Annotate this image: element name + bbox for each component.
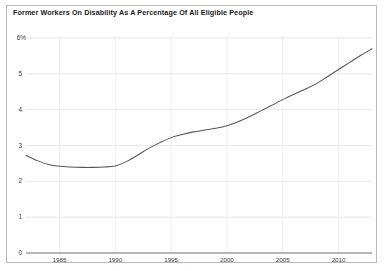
x-axis-tick-label: 2010 — [324, 256, 354, 263]
y-axis-tick-label: 3 — [6, 142, 22, 149]
y-axis-tick-label: 6% — [4, 34, 26, 41]
x-axis-tick-label: 1995 — [156, 256, 186, 263]
x-axis-tick-label: 2005 — [268, 256, 298, 263]
y-axis-tick-label: 2 — [6, 177, 22, 184]
chart-plot-area — [0, 0, 385, 271]
y-axis-tick-label: 0 — [6, 249, 22, 256]
data-line-series-0 — [26, 49, 372, 168]
gridlines-group — [26, 38, 372, 217]
x-axis-tick-label: 1985 — [44, 256, 74, 263]
y-axis-tick-label: 5 — [6, 70, 22, 77]
x-axis-tick-label: 1990 — [100, 256, 130, 263]
y-axis-tick-label: 1 — [6, 213, 22, 220]
x-axis-tick-label: 2000 — [212, 256, 242, 263]
y-axis-tick-label: 4 — [6, 106, 22, 113]
